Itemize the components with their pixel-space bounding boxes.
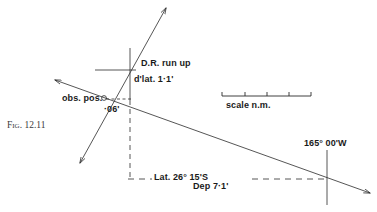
label-scale: scale n.m. [226,100,271,110]
label-departure: Dep 7·1' [193,181,228,191]
course-line [80,8,166,163]
label-longitude: 165° 00'W [304,138,347,148]
label-dr-run-up: D.R. run up [141,58,191,68]
label-observed-position-minutes: ·06' [104,104,120,114]
label-observed-position: obs. pos. [62,93,102,103]
label-d-lat: d'lat. 1·1' [134,74,173,84]
figure-caption: Fig. 12.11 [7,120,45,130]
figure-container: Fig. 12.11 D.R. run up d'lat. 1·1' obs. … [0,0,377,212]
